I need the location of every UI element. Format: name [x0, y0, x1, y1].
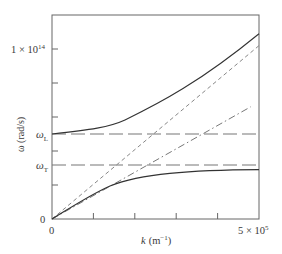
- y-axis-title: ω (rad/s): [15, 117, 27, 152]
- x-ticks: [93, 213, 217, 219]
- x-axis-title: k(m−1): [141, 234, 172, 247]
- dispersion-chart: 1 × 1014 0 ωL ωT ω (rad/s) 0 5 × 105 k(m…: [0, 0, 282, 254]
- light-line-static: [52, 107, 251, 219]
- x-tick-label-zero: 0: [49, 225, 54, 236]
- light-line-high-freq: [52, 46, 259, 219]
- y-label-omega-T: ωT: [36, 159, 49, 174]
- y-tick-label-zero: 0: [40, 214, 45, 225]
- y-tick-label-1e14: 1 × 1014: [11, 43, 45, 55]
- x-tick-label-max: 5 × 105: [238, 224, 269, 236]
- lower-polariton-branch: [52, 170, 259, 219]
- y-label-omega-L: ωL: [36, 128, 48, 143]
- plot-frame: [52, 15, 259, 219]
- upper-polariton-branch: [52, 34, 259, 134]
